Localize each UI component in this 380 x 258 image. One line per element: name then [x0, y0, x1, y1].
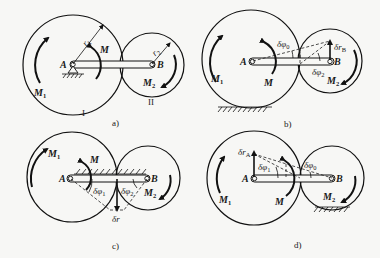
pin-B [150, 62, 154, 66]
crank-rod [67, 175, 150, 182]
moment-M2-label: M2 [326, 75, 339, 87]
point-A-label: A [241, 173, 249, 184]
panel-c-caption: c) [112, 241, 119, 251]
point-B-label: B [150, 173, 158, 184]
moment-M2-label: M2 [143, 187, 156, 199]
moment-M-label: M [89, 154, 100, 165]
point-B-label: B [335, 173, 343, 184]
moment-M1-arrow [35, 38, 48, 83]
radius-r2-label: r2 [150, 46, 163, 59]
angle-phi1-label: δφ1 [258, 162, 270, 173]
moment-M2-label: M2 [322, 191, 335, 203]
moment-M2-arrow [160, 175, 171, 199]
crank-rod [249, 58, 334, 65]
disp-rB-label: δrB [334, 42, 347, 53]
point-A-label: A [59, 59, 67, 70]
radius-r1-label: r1 [80, 36, 93, 48]
moment-M1-label: M1 [47, 148, 60, 160]
panel-b-caption: b) [284, 119, 292, 129]
gear-diagram: r1 r2 M1 M M2 A B I II a) [0, 0, 380, 258]
disp-rA-label: δrA [238, 147, 251, 158]
angle-phi0-label: δφ0 [277, 39, 289, 50]
moment-M2-arrow [342, 50, 357, 84]
moment-M1-label: M1 [33, 87, 46, 99]
crank-rod [70, 61, 155, 68]
angle-phi1-label: δφ1 [93, 186, 105, 197]
angle-phi0-arc [292, 51, 293, 58]
panel-c: δr δφ1 δφ2 M1 M M2 A B c) [27, 132, 180, 251]
point-B-label: B [333, 56, 341, 67]
panel-d: δrA δφ1 δφ0 M1 M M2 A B d) [207, 131, 364, 250]
point-A-label: A [239, 56, 247, 67]
panel-d-caption: d) [294, 240, 302, 250]
point-B-label: B [156, 59, 164, 70]
moment-M2-arrow [342, 176, 355, 202]
moment-M1-label: M1 [218, 194, 231, 206]
moment-M-label: M [99, 44, 110, 55]
panel-a-caption: a) [112, 118, 119, 128]
gear-I-label: I [82, 108, 85, 118]
pin-B [145, 176, 149, 180]
moment-M2-label: M2 [142, 77, 155, 89]
angle-phi2-label: δφ2 [312, 67, 324, 78]
pin-B [329, 176, 333, 180]
moment-M1-arrow [217, 157, 224, 193]
crank-rod [251, 175, 335, 182]
ground-hatch-icon [74, 169, 146, 174]
moment-M1-label: M1 [210, 73, 223, 85]
moment-M-label: M [263, 77, 274, 88]
pin-A [250, 59, 254, 63]
panel-b: δrB δφ0 δφ2 M1 M M2 A B b) [202, 10, 362, 129]
point-A-label: A [58, 173, 66, 184]
gear-II-label: II [148, 97, 154, 107]
disp-r-label: δr [112, 214, 120, 224]
moment-M-label: M [274, 196, 285, 207]
panel-a: r1 r2 M1 M M2 A B I II a) [23, 15, 184, 128]
moment-M2-arrow [162, 55, 176, 87]
angle-phi0-label: δφ0 [304, 160, 316, 171]
angle-phi2-label: δφ2 [121, 186, 133, 197]
